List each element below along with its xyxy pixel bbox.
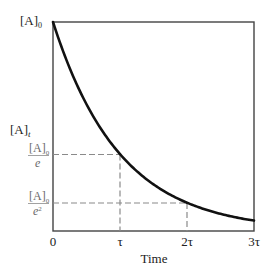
y-e-denominator: e (35, 156, 41, 170)
y-top-label: [A]0 (20, 13, 42, 30)
y-e2-fraction: [A]0 e2 (28, 189, 50, 218)
plot-frame (53, 22, 254, 231)
x-tick-2tau: 2τ (181, 234, 193, 249)
y-e2-numerator: [A]0 (29, 189, 50, 205)
y-e2-denominator: e2 (33, 204, 42, 218)
x-tick-0: 0 (50, 234, 57, 249)
y-axis-label: [A]t (10, 122, 31, 139)
x-axis-label: Time (141, 251, 168, 266)
decay-curve (53, 22, 254, 221)
x-tick-tau: τ (117, 234, 122, 249)
decay-chart: [A]0 [A]t [A]0 e [A]0 e2 0 τ 2τ 3τ Time (0, 0, 269, 276)
x-tick-3tau: 3τ (248, 234, 260, 249)
y-e-numerator: [A]0 (29, 141, 50, 157)
y-e-fraction: [A]0 e (28, 141, 50, 170)
